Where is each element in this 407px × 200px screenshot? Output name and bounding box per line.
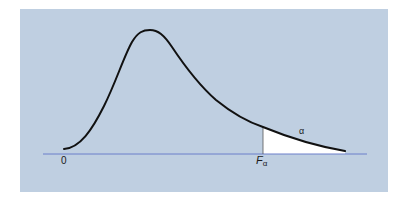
tail-area-label: α bbox=[299, 126, 304, 136]
critical-value-label: Fα bbox=[256, 154, 267, 168]
critical-value-base: F bbox=[256, 154, 263, 166]
critical-value-subscript: α bbox=[263, 159, 268, 168]
origin-label: 0 bbox=[61, 155, 67, 166]
figure: 0 Fα α bbox=[0, 0, 407, 200]
f-distribution-plot bbox=[0, 0, 407, 200]
